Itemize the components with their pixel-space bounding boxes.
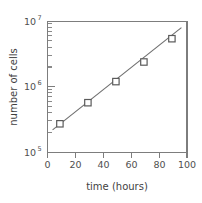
y-axis-title: number of cells [8,48,19,125]
y-tick-label-1e5-base: 10 [24,147,36,158]
data-point [141,59,147,65]
y-tick-label-1e7-base: 10 [24,16,36,27]
data-point [57,121,63,127]
y-tick-label-1e6-exponent: 6 [38,79,42,87]
y-axis-tick-labels: 10 5 10 6 10 7 [24,14,42,158]
y-tick-label-1e5-exponent: 5 [38,145,42,153]
x-axis-ticks [48,152,188,157]
x-tick-label-0: 0 [44,159,50,170]
x-axis-tick-labels: 0 20 40 60 80 100 [44,159,196,170]
growth-curve-chart: 10 5 10 6 10 7 0 20 40 60 80 100 time (h… [0,0,202,203]
plot-area [47,21,187,152]
x-tick-label-100: 100 [178,159,196,170]
x-axis-title: time (hours) [86,181,148,192]
data-point [113,78,119,84]
x-tick-label-20: 20 [69,159,81,170]
y-tick-label-1e7-exponent: 7 [38,14,42,22]
data-point [85,100,91,106]
data-point [169,36,175,42]
y-tick-label-1e6-base: 10 [24,81,36,92]
figure-container: 10 5 10 6 10 7 0 20 40 60 80 100 time (h… [0,0,202,203]
x-tick-label-60: 60 [125,159,137,170]
x-tick-label-40: 40 [97,159,109,170]
x-tick-label-80: 80 [153,159,165,170]
